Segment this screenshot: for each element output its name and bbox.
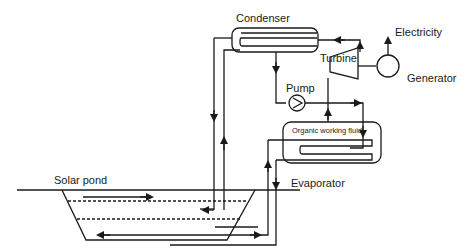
generator-label: Generator	[407, 72, 457, 84]
pump-label: Pump	[286, 82, 315, 94]
condenser	[232, 28, 318, 52]
pump	[289, 95, 305, 111]
organic-fluid-label: Organic working fluid	[292, 126, 362, 135]
solar-pond-orc-diagram: Condenser Turbine Electricity Generator …	[0, 0, 471, 252]
electricity-label: Electricity	[395, 26, 443, 38]
solar-pond-label: Solar pond	[54, 174, 107, 186]
evaporator-label: Evaporator	[291, 177, 345, 189]
condenser-label: Condenser	[236, 12, 290, 24]
solar-pond	[17, 190, 300, 240]
generator	[377, 55, 399, 77]
turbine-label: Turbine	[320, 52, 357, 64]
